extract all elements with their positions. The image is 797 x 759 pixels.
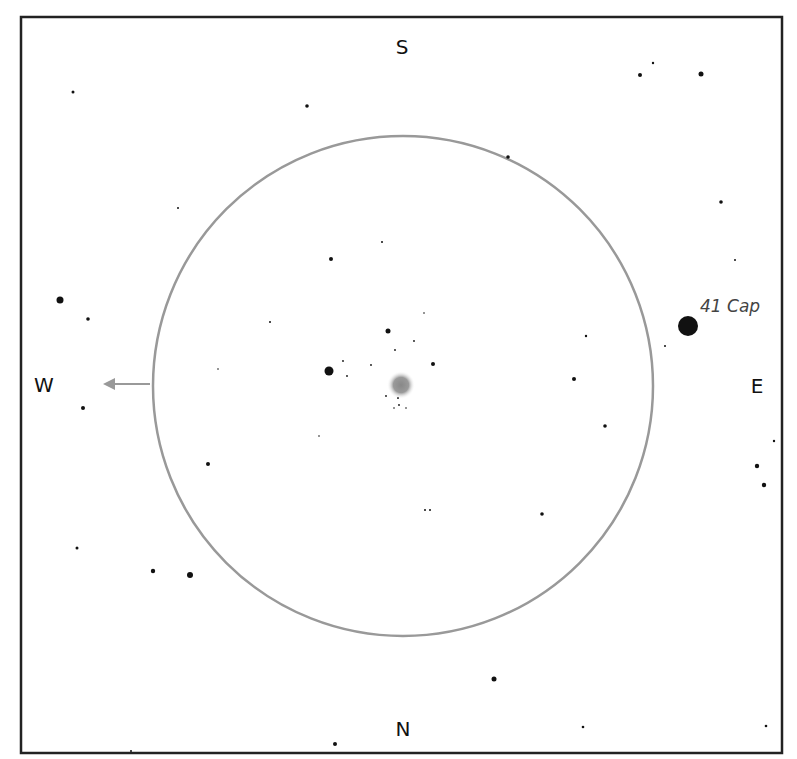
star [151,569,155,573]
star [385,395,387,397]
star-label-41-cap: 41 Cap [700,296,760,316]
star [762,483,766,487]
star-field [57,62,776,752]
star [206,462,210,466]
direction-label-north: N [396,717,411,741]
star [699,72,704,77]
star [582,726,585,729]
star [333,742,337,746]
direction-label-east: E [751,374,764,398]
star [652,62,654,64]
direction-arrow-icon [103,378,150,390]
finder-chart: S N W E 41 Cap [0,0,797,759]
star [269,321,271,323]
star [429,509,431,511]
star [130,750,132,752]
star [325,367,334,376]
star [773,440,775,442]
star [187,572,193,578]
direction-label-west: W [34,373,54,397]
star [76,547,79,550]
star [329,257,333,261]
star [492,677,497,682]
star [217,368,219,370]
star [540,512,544,516]
nebula-target [387,371,415,399]
star [86,317,90,321]
star [755,464,759,468]
star [177,207,179,209]
star [585,335,587,337]
star [506,155,510,159]
star [398,404,400,406]
star [305,104,309,108]
star [370,364,372,366]
star [734,259,736,261]
star [57,297,64,304]
direction-label-south: S [396,35,409,59]
star [405,407,407,409]
star [572,377,576,381]
star [413,340,415,342]
star [81,406,85,410]
star [664,345,666,347]
star [394,349,396,351]
star [346,375,348,377]
star [638,73,642,77]
star [765,725,768,728]
star-41-cap [678,316,698,336]
star [342,360,344,362]
star [719,200,723,204]
star [386,329,391,334]
star [393,407,395,409]
star [431,362,435,366]
star [381,241,383,243]
star [318,435,320,437]
star [423,312,425,314]
star [424,509,426,511]
star [72,91,75,94]
star [603,424,607,428]
